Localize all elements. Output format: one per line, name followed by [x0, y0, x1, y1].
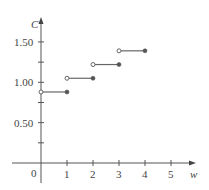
x-tick-label: 3: [116, 168, 122, 180]
closed-endpoint-icon: [65, 90, 69, 94]
open-endpoint-icon: [117, 49, 121, 53]
y-axis-label: C: [31, 18, 39, 30]
open-endpoint-icon: [39, 90, 43, 94]
closed-endpoint-icon: [117, 63, 121, 67]
step-function-chart: w C 0 12345 0.501.001.50: [0, 0, 209, 190]
y-tick-label: 0.50: [14, 117, 34, 129]
origin-label: 0: [31, 167, 37, 179]
x-axis-label: w: [190, 168, 198, 180]
y-axis-arrow-icon: [39, 17, 44, 24]
step-segments: [39, 49, 147, 94]
y-tick-label: 1.50: [14, 36, 34, 48]
open-endpoint-icon: [65, 76, 69, 80]
y-tick-label: 1.00: [14, 76, 34, 88]
x-axis-arrow-icon: [189, 161, 196, 166]
x-tick-label: 1: [64, 168, 70, 180]
open-endpoint-icon: [91, 63, 95, 67]
closed-endpoint-icon: [143, 49, 147, 53]
closed-endpoint-icon: [91, 76, 95, 80]
x-tick-label: 5: [168, 168, 174, 180]
x-tick-label: 4: [142, 168, 148, 180]
y-ticks: 0.501.001.50: [14, 36, 44, 143]
x-tick-label: 2: [90, 168, 96, 180]
